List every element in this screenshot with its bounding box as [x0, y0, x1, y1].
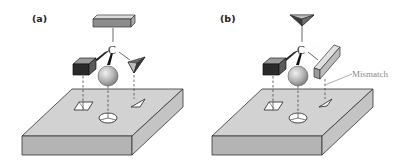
- dark-block-substituent: [73, 58, 96, 75]
- circle-hole: [99, 113, 117, 123]
- pyramid-substituent: [128, 57, 145, 73]
- mismatch-label: Mismatch: [352, 69, 388, 79]
- central-carbon-a: C: [108, 43, 116, 57]
- panel-a: (a): [22, 13, 183, 155]
- flat-bar-substituent-mismatch: [314, 45, 340, 79]
- sphere-substituent: [288, 66, 308, 86]
- chirality-binding-diagram: (a): [0, 0, 414, 167]
- panel-b: (b): [212, 13, 388, 155]
- dark-block-substituent: [263, 58, 286, 75]
- sphere-substituent: [98, 66, 118, 86]
- mismatch-callout-line: [325, 74, 352, 85]
- central-carbon-b: C: [297, 43, 305, 57]
- flat-bar-substituent: [93, 15, 135, 27]
- circle-hole: [289, 113, 307, 123]
- panel-label-a: (a): [32, 13, 47, 24]
- panel-label-b: (b): [220, 13, 235, 24]
- pyramid-substituent: [290, 15, 314, 26]
